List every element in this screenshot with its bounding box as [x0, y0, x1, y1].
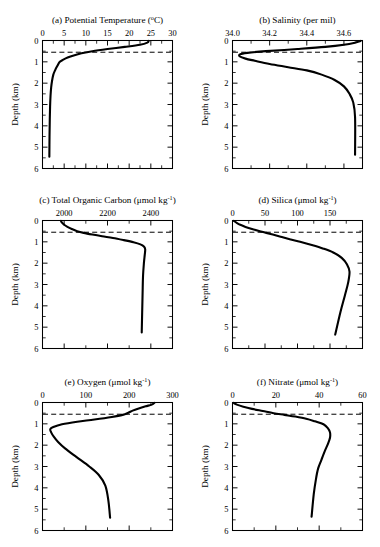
y-tick-label: 5: [34, 323, 38, 332]
x-tick-label: 34.4: [299, 29, 314, 38]
y-axis-label: Depth (km): [10, 83, 20, 126]
x-tick-label: 2400: [142, 209, 159, 218]
y-tick-label: 2: [224, 79, 228, 88]
y-tick-label: 2: [224, 441, 228, 450]
y-tick-label: 3: [224, 101, 228, 110]
plot-frame: [43, 221, 173, 349]
x-tick-label: 2200: [99, 209, 116, 218]
panel-e: (e) Oxygen (μmol kg-1)01002003000123456D…: [0, 362, 190, 544]
profile-curve: [50, 403, 154, 518]
panel-f: (f) Nitrate (μmol kg-1)02040600123456Dep…: [190, 362, 380, 544]
y-tick-label: 6: [224, 527, 228, 536]
y-tick-label: 6: [224, 165, 228, 174]
x-tick-label: 2000: [56, 209, 73, 218]
y-tick-label: 6: [34, 527, 38, 536]
x-tick-label: 0: [230, 209, 234, 218]
y-tick-label: 0: [34, 217, 38, 226]
y-tick-label: 1: [34, 238, 38, 247]
y-tick-label: 4: [224, 302, 229, 311]
plot-frame: [233, 403, 363, 531]
y-axis-label: Depth (km): [10, 445, 20, 488]
y-tick-label: 2: [34, 259, 38, 268]
y-tick-label: 3: [224, 463, 228, 472]
x-tick-label: 300: [166, 391, 179, 400]
x-tick-label: 0: [230, 391, 234, 400]
x-tick-label: 40: [315, 391, 323, 400]
y-tick-label: 0: [34, 37, 38, 46]
panel-a: (a) Potential Temperature (oC)0510152025…: [0, 0, 190, 182]
plot-frame: [43, 403, 173, 531]
panel-b: (b) Salinity (per mil)34.034.234.434.601…: [190, 0, 380, 182]
y-tick-label: 5: [34, 143, 38, 152]
x-tick-label: 0: [40, 29, 44, 38]
profile-curve: [61, 221, 145, 333]
y-tick-label: 2: [34, 441, 38, 450]
y-tick-label: 6: [34, 345, 38, 354]
y-tick-label: 4: [224, 122, 229, 131]
x-tick-label: 50: [261, 209, 269, 218]
profile-curve: [234, 403, 331, 517]
panel-title: (b) Salinity (per mil): [259, 15, 335, 25]
x-tick-label: 5: [62, 29, 66, 38]
panel-title: (c) Total Organic Carbon (μmol kg-1): [39, 194, 175, 205]
x-tick-label: 100: [80, 391, 93, 400]
y-axis-label: Depth (km): [200, 263, 210, 306]
x-tick-label: 34.6: [337, 29, 352, 38]
x-tick-label: 100: [291, 209, 304, 218]
panel-d: (d) Silica (μmol kg-1)0501001500123456De…: [190, 180, 380, 362]
x-tick-label: 60: [358, 391, 366, 400]
y-tick-label: 1: [224, 58, 228, 67]
x-tick-label: 20: [272, 391, 280, 400]
x-tick-label: 200: [123, 391, 136, 400]
y-axis-label: Depth (km): [200, 445, 210, 488]
panel-title: (e) Oxygen (μmol kg-1): [65, 376, 151, 387]
x-tick-label: 10: [82, 29, 90, 38]
y-axis-label: Depth (km): [10, 263, 20, 306]
profile-curve: [49, 41, 148, 157]
y-tick-label: 1: [224, 420, 228, 429]
x-tick-label: 0: [40, 391, 44, 400]
y-tick-label: 4: [224, 484, 229, 493]
y-tick-label: 3: [224, 281, 228, 290]
y-tick-label: 5: [224, 505, 228, 514]
x-tick-label: 25: [147, 29, 155, 38]
panel-title: (d) Silica (μmol kg-1): [258, 194, 336, 205]
y-tick-label: 0: [224, 37, 228, 46]
profile-curve: [234, 221, 350, 335]
y-tick-label: 2: [34, 79, 38, 88]
x-tick-label: 20: [125, 29, 133, 38]
y-tick-label: 5: [34, 505, 38, 514]
plot-frame: [233, 221, 363, 349]
y-tick-label: 6: [224, 345, 228, 354]
y-tick-label: 3: [34, 281, 38, 290]
y-tick-label: 4: [34, 484, 39, 493]
y-tick-label: 0: [224, 217, 228, 226]
x-tick-label: 15: [103, 29, 111, 38]
y-tick-label: 5: [224, 143, 228, 152]
y-tick-label: 4: [34, 122, 39, 131]
y-tick-label: 2: [224, 259, 228, 268]
x-tick-label: 150: [324, 209, 337, 218]
y-axis-label: Depth (km): [200, 83, 210, 126]
oceanographic-depth-profiles-figure: (a) Potential Temperature (oC)0510152025…: [0, 0, 380, 547]
panel-title: (f) Nitrate (μmol kg-1): [257, 376, 338, 387]
y-tick-label: 0: [224, 399, 228, 408]
panel-title: (a) Potential Temperature (oC): [52, 14, 163, 25]
y-tick-label: 0: [34, 399, 38, 408]
profile-curve: [239, 41, 361, 155]
y-tick-label: 5: [224, 323, 228, 332]
y-tick-label: 3: [34, 463, 38, 472]
x-tick-label: 34.2: [262, 29, 277, 38]
y-tick-label: 1: [34, 58, 38, 67]
panel-c: (c) Total Organic Carbon (μmol kg-1)2000…: [0, 180, 190, 362]
y-tick-label: 1: [34, 420, 38, 429]
x-tick-label: 30: [168, 29, 176, 38]
y-tick-label: 3: [34, 101, 38, 110]
y-tick-label: 1: [224, 238, 228, 247]
y-tick-label: 6: [34, 165, 38, 174]
y-tick-label: 4: [34, 302, 39, 311]
